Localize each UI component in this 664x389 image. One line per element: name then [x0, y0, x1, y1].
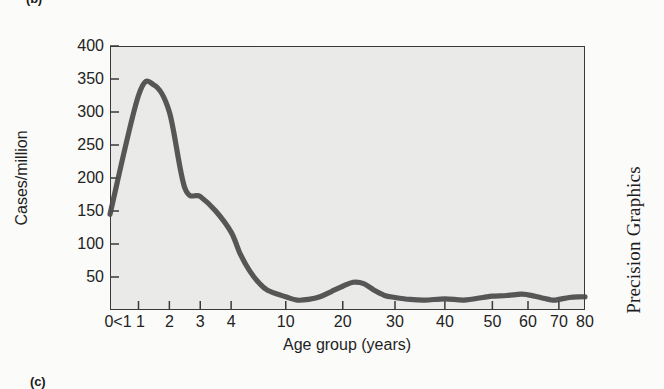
page-root: (b) 50100150200250300350400 0<1123410203… — [0, 0, 664, 389]
x-tick-label: 40 — [436, 313, 454, 331]
x-tick-label: 20 — [334, 313, 352, 331]
y-tick-label: 50 — [86, 268, 104, 286]
y-tick-label: 400 — [77, 37, 104, 55]
panel-letter-c: (c) — [30, 374, 45, 389]
y-tick-label: 150 — [77, 202, 104, 220]
x-tick-label: 10 — [277, 313, 295, 331]
y-tick-label: 250 — [77, 136, 104, 154]
x-axis-title: Age group (years) — [283, 336, 411, 354]
y-tick-label: 300 — [77, 103, 104, 121]
x-axis-ticks — [139, 301, 559, 310]
x-tick-label: 0<1 — [104, 313, 131, 331]
x-tick-label: 2 — [165, 313, 174, 331]
x-tick-label: 1 — [136, 313, 145, 331]
credit-label: Precision Graphics — [623, 166, 645, 314]
x-tick-label: 70 — [550, 313, 568, 331]
x-tick-label: 4 — [227, 313, 236, 331]
x-tick-label: 80 — [576, 313, 594, 331]
x-tick-label: 30 — [386, 313, 404, 331]
y-axis-ticks — [110, 46, 119, 277]
curve-svg — [110, 46, 585, 310]
y-axis-tick-labels: 50100150200250300350400 — [52, 0, 104, 389]
y-tick-label: 100 — [77, 235, 104, 253]
x-tick-label: 50 — [483, 313, 501, 331]
y-tick-label: 350 — [77, 70, 104, 88]
x-tick-label: 3 — [196, 313, 205, 331]
x-tick-label: 60 — [519, 313, 537, 331]
y-axis-title: Cases/million — [13, 130, 31, 225]
y-tick-label: 200 — [77, 169, 104, 187]
data-line-series — [110, 81, 585, 300]
figure-chart: 50100150200250300350400 0<11234102030405… — [0, 0, 664, 389]
